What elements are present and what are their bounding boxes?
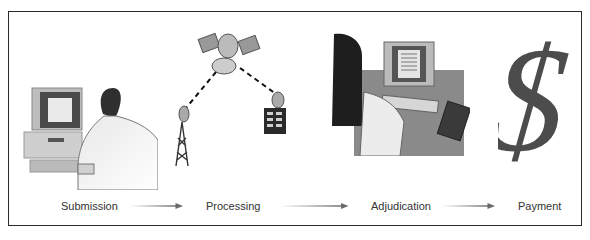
satellite-network-icon bbox=[172, 28, 302, 168]
step-label-payment: Payment bbox=[518, 200, 561, 212]
person-reviewing-claim-icon bbox=[324, 32, 470, 156]
step-label-processing: Processing bbox=[206, 200, 260, 212]
step-label-submission: Submission bbox=[61, 200, 118, 212]
dollar-sign-icon: $ bbox=[498, 32, 574, 172]
arrow-right-icon bbox=[268, 203, 360, 209]
svg-text:$: $ bbox=[498, 32, 574, 172]
step-label-adjudication: Adjudication bbox=[371, 200, 431, 212]
person-at-computer-icon bbox=[18, 78, 158, 190]
arrow-right-icon bbox=[432, 203, 504, 209]
arrow-right-icon bbox=[120, 203, 192, 209]
